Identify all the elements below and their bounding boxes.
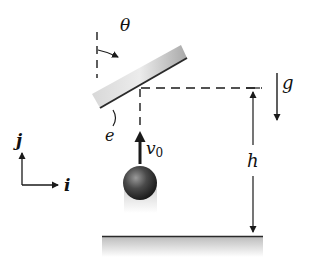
initial-velocity-label: v0 [146,138,163,160]
height-label: h [247,150,259,171]
ground [102,237,263,258]
coordinate-axes [22,153,58,185]
theta-arc-arrow [98,50,118,57]
physics-diagram: θ e g h [0,0,313,263]
ball [123,166,157,200]
theta-label: θ [120,15,130,35]
initial-velocity-arrow [135,131,146,164]
diagram-canvas: θ e g h [0,0,313,263]
gravity-label: g [282,72,294,93]
i-unit-vector-label: i [64,175,70,195]
j-unit-vector-label: j [13,130,23,150]
restitution-arc [113,110,116,126]
restitution-label: e [105,126,114,145]
inclined-plate [92,45,187,108]
